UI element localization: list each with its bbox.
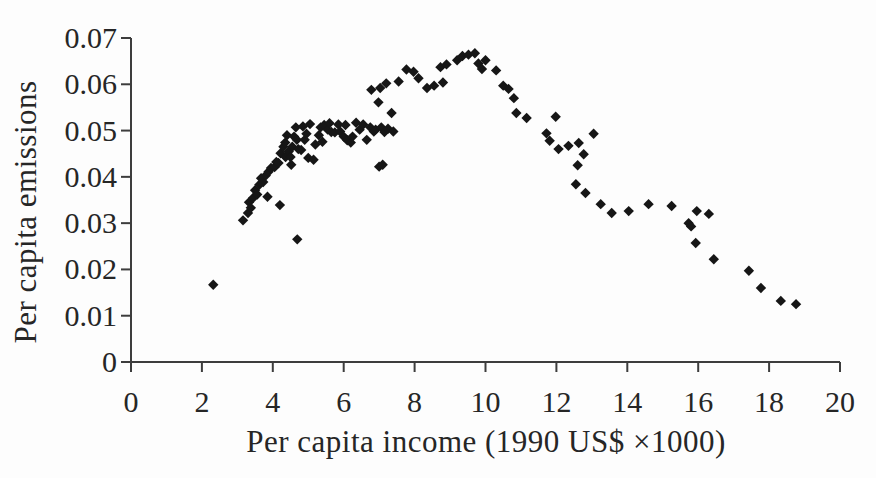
data-point-marker [386,108,396,118]
x-tick-label: 18 [754,385,784,418]
y-tick-label: 0.01 [65,299,118,332]
data-point-marker [607,208,617,218]
data-point-marker [791,299,801,309]
data-point-marker [572,160,582,170]
y-tick-label: 0.04 [65,160,118,193]
x-tick-label: 20 [825,385,855,418]
data-point-marker [373,97,383,107]
data-point-marker [438,77,448,87]
data-point-marker [643,199,653,209]
data-point-marker [262,192,272,202]
y-tick-label: 0.07 [65,21,118,54]
data-point-marker [563,141,573,151]
data-point-marker [580,188,590,198]
data-point-marker [366,85,376,95]
y-tick-label: 0.05 [65,114,118,147]
x-tick-label: 6 [336,385,351,418]
data-point-marker [511,108,521,118]
data-point-marker [550,111,560,121]
data-point-marker [692,206,702,216]
data-point-marker [596,199,606,209]
x-tick-label: 4 [265,385,280,418]
data-point-marker [574,138,584,148]
y-tick-label: 0.03 [65,206,118,239]
data-point-marker [208,280,218,290]
x-tick-label: 10 [471,385,501,418]
x-axis-title: Per capita income (1990 US$ ×1000) [131,424,841,460]
data-point-marker [362,135,372,145]
data-point-marker [393,76,403,86]
data-point-marker [666,201,676,211]
data-point-marker [509,93,519,103]
data-point-marker [704,209,714,219]
y-tick-label: 0 [102,345,117,378]
data-point-marker [292,234,302,244]
x-tick-label: 12 [541,385,571,418]
plot-svg: 00.010.020.030.040.050.060.0702468101214… [0,0,876,478]
data-point-marker [756,283,766,293]
scatter-chart-figure: 00.010.020.030.040.050.060.0702468101214… [0,0,876,478]
x-tick-label: 2 [194,385,209,418]
x-tick-label: 14 [612,385,642,418]
data-point-marker [553,144,563,154]
axis-spines [131,38,840,362]
x-tick-label: 16 [683,385,713,418]
data-point-marker [624,206,634,216]
data-point-marker [776,296,786,306]
data-point-marker [578,149,588,159]
y-tick-label: 0.06 [65,67,118,100]
data-point-marker [571,179,581,189]
y-axis-title: Per capita emissions [8,67,48,357]
data-point-marker [521,113,531,123]
y-tick-label: 0.02 [65,252,118,285]
data-point-marker [744,266,754,276]
data-point-marker [491,65,501,75]
data-point-marker [691,238,701,248]
x-tick-label: 8 [407,385,422,418]
data-point-marker [709,254,719,264]
data-point-marker [588,129,598,139]
data-point-marker [286,160,296,170]
data-point-marker [275,200,285,210]
x-tick-label: 0 [124,385,139,418]
